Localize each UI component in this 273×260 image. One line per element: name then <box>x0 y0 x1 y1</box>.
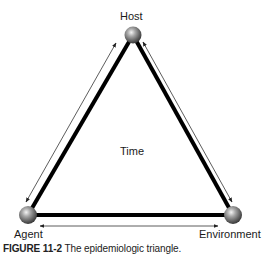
agent-node-icon <box>19 206 37 224</box>
host-label: Host <box>120 10 143 22</box>
epidemiologic-triangle-diagram <box>0 0 273 260</box>
figure-number: FIGURE 11-2 <box>3 243 62 254</box>
arrow-agent-host <box>26 43 116 202</box>
host-node-icon <box>125 27 142 44</box>
environment-label: Environment <box>199 228 261 240</box>
arrow-host-environment <box>143 42 232 202</box>
relationship-arrows <box>26 42 232 226</box>
environment-node-icon <box>224 206 242 224</box>
triangle-edges <box>28 35 233 215</box>
edge-agent-host <box>28 35 133 215</box>
time-label: Time <box>120 145 144 157</box>
caption-text: The epidemiologic triangle. <box>62 243 181 254</box>
agent-label: Agent <box>14 228 43 240</box>
edge-host-environment <box>133 35 233 215</box>
figure-caption: FIGURE 11-2 The epidemiologic triangle. <box>3 243 181 254</box>
